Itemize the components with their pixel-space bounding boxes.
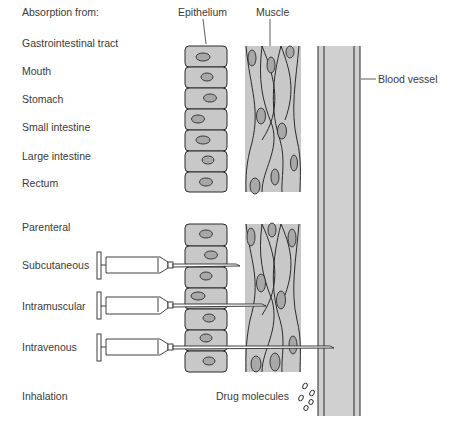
blood-vessel [318,46,360,416]
blood-vessel-label: Blood vessel [378,73,438,85]
epithelium-top [185,46,227,192]
syringe-intramuscular [97,292,266,319]
epithelium-label: Epithelium [178,6,227,18]
muscle-bottom [245,223,301,372]
route-label: Inhalation [22,390,68,402]
route-label: Intramuscular [22,300,86,312]
route-label: Gastrointestinal tract [22,37,118,49]
route-label: Intravenous [22,341,77,353]
drug-molecules [298,382,315,411]
route-label: Parenteral [22,221,70,233]
route-label: Mouth [22,65,51,77]
route-label: Small intestine [22,121,90,133]
absorption-diagram [0,0,452,427]
muscle-label: Muscle [256,6,289,18]
drug-molecules-label: Drug molecules [216,390,289,402]
route-label: Stomach [22,93,63,105]
route-label: Large intestine [22,150,91,162]
epithelium-leader [203,19,206,44]
route-label: Subcutaneous [22,259,89,271]
muscle-top [245,46,301,194]
epithelium-bottom [185,224,227,372]
title-label: Absorption from: [22,6,99,18]
route-label: Rectum [22,177,58,189]
